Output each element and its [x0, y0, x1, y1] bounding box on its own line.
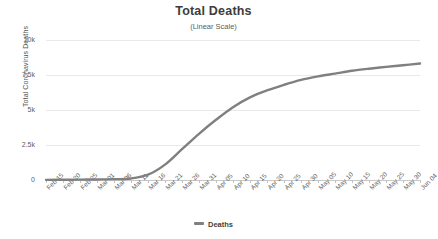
series-line-deaths [46, 40, 420, 180]
y-tick-label: 0 [0, 176, 35, 183]
legend-swatch-deaths [194, 222, 204, 225]
y-tick-label: 5k [0, 106, 35, 113]
chart-title: Total Deaths [0, 4, 427, 18]
chart-subtitle: (Linear Scale) [0, 22, 427, 31]
y-tick-label: 7.5k [0, 71, 35, 78]
legend-label-deaths: Deaths [208, 220, 233, 229]
plot-area: 10k7.5k5k2.5k0 Feb 15Feb 20Feb 25Mar 01M… [46, 40, 420, 180]
y-tick-label: 2.5k [0, 141, 35, 148]
chart-legend: Deaths [0, 219, 427, 229]
y-tick-label: 10k [0, 36, 35, 43]
